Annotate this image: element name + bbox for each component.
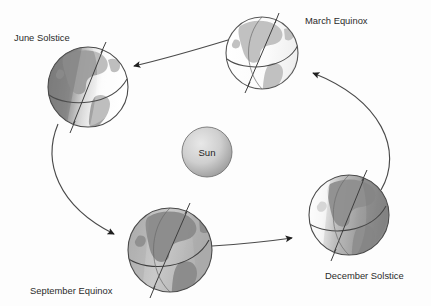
globe-september-equinox: September Equinox — [30, 203, 213, 298]
sun-label: Sun — [198, 147, 215, 158]
globe-december-solstice: December Solstice — [308, 170, 404, 281]
march-equinox-label: March Equinox — [305, 15, 368, 26]
arrow-june-to-september — [52, 124, 114, 234]
globe-june-solstice: June Solstice — [14, 32, 128, 133]
sun-body: Sun — [182, 127, 232, 177]
orbit-scene: Sun — [0, 0, 431, 306]
globe-march-equinox: March Equinox — [226, 13, 368, 93]
arrow-march-to-june — [134, 40, 228, 66]
arrow-december-to-march — [313, 73, 390, 190]
seasons-orbit-diagram: Sun — [0, 0, 431, 306]
december-solstice-label: December Solstice — [325, 270, 404, 281]
arrow-september-to-december — [212, 238, 292, 246]
june-solstice-label: June Solstice — [14, 32, 70, 43]
september-equinox-label: September Equinox — [30, 285, 113, 296]
